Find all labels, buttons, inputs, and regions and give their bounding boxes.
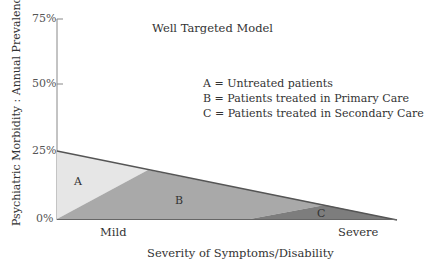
y-tick-0: 0% bbox=[36, 212, 53, 225]
y-tick-50: 50% bbox=[32, 77, 56, 90]
region-a-label: A bbox=[74, 175, 82, 188]
x-axis-label: Severity of Symptoms/Disability bbox=[147, 246, 334, 260]
y-axis-label: Psychiatric Morbidity : Annual Prevalenc… bbox=[10, 0, 23, 226]
legend-item-b: B = Patients treated in Primary Care bbox=[203, 91, 424, 106]
y-tick-75: 75% bbox=[32, 12, 56, 25]
x-category-mild: Mild bbox=[100, 225, 127, 239]
legend-item-c: C = Patients treated in Secondary Care bbox=[203, 106, 424, 121]
region-b-label: B bbox=[175, 194, 183, 207]
x-category-severe: Severe bbox=[338, 225, 378, 239]
y-tick-25: 25% bbox=[32, 144, 56, 157]
region-c-label: C bbox=[317, 207, 325, 220]
legend: A = Untreated patients B = Patients trea… bbox=[203, 76, 424, 121]
legend-item-a: A = Untreated patients bbox=[203, 76, 424, 91]
chart-title: Well Targeted Model bbox=[152, 21, 273, 35]
